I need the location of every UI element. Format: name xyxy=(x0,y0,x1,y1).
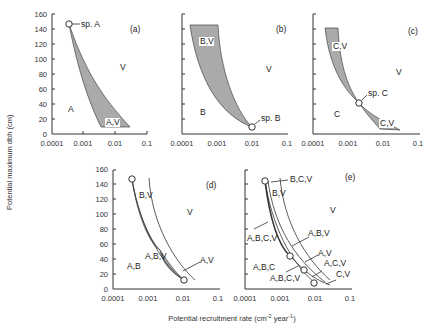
svg-text:40: 40 xyxy=(39,100,47,109)
svg-text:(d): (d) xyxy=(206,180,217,190)
svg-text:0.001: 0.001 xyxy=(271,294,290,303)
svg-text:60: 60 xyxy=(100,240,108,249)
svg-text:0.01: 0.01 xyxy=(376,139,391,148)
panel-b: 0.0001 0.001 0.01 0.1 sp. B (b) V B B,V xyxy=(171,14,293,148)
svg-text:0.1: 0.1 xyxy=(282,139,292,148)
panel-a: 0 20 40 60 80 100 120 140 160 0.0001 0.0… xyxy=(34,10,152,148)
svg-text:C,V: C,V xyxy=(336,269,351,279)
svg-text:0: 0 xyxy=(43,130,47,139)
svg-text:V: V xyxy=(187,207,193,217)
y-axis-label: Potential maximum dbh (cm) xyxy=(5,114,14,210)
panel-e: 0.0001 0.001 0.01 0.1 (e) V A,B,C B,C,V … xyxy=(234,170,356,303)
svg-text:140: 140 xyxy=(95,180,108,189)
svg-text:V: V xyxy=(330,205,336,215)
svg-text:0: 0 xyxy=(104,285,108,294)
svg-text:0.1: 0.1 xyxy=(213,294,223,303)
svg-text:160: 160 xyxy=(95,165,108,174)
svg-text:80: 80 xyxy=(39,70,47,79)
svg-text:A,B: A,B xyxy=(127,261,141,271)
svg-text:B,V: B,V xyxy=(139,190,153,200)
svg-text:0.1: 0.1 xyxy=(413,139,423,148)
figure-canvas: Potential maximum dbh (cm) 0 20 40 60 80… xyxy=(0,0,440,333)
svg-text:V: V xyxy=(396,67,402,77)
svg-text:0.0001: 0.0001 xyxy=(102,294,125,303)
panel-d: 0 20 40 60 80 100 120 140 160 0.0001 0.0… xyxy=(95,165,223,303)
svg-text:0.0001: 0.0001 xyxy=(234,294,257,303)
svg-text:(c): (c) xyxy=(408,26,418,36)
svg-text:A,V: A,V xyxy=(318,248,332,258)
svg-text:(a): (a) xyxy=(130,24,141,34)
svg-text:0.01: 0.01 xyxy=(245,139,260,148)
svg-text:A,B,C: A,B,C xyxy=(253,262,275,272)
svg-text:0.001: 0.001 xyxy=(208,139,227,148)
svg-text:0.01: 0.01 xyxy=(108,139,123,148)
svg-text:B,V: B,V xyxy=(272,188,286,198)
svg-text:100: 100 xyxy=(95,210,108,219)
svg-text:A,V: A,V xyxy=(106,117,120,127)
svg-text:sp. B: sp. B xyxy=(261,113,281,123)
svg-text:0.0001: 0.0001 xyxy=(302,139,325,148)
svg-text:0.001: 0.001 xyxy=(139,294,158,303)
svg-text:C,V: C,V xyxy=(333,41,348,51)
svg-text:B,V: B,V xyxy=(200,36,214,46)
svg-text:A,V: A,V xyxy=(200,255,214,265)
sp-a-point xyxy=(66,21,72,27)
svg-text:V: V xyxy=(120,62,126,72)
svg-text:0.001: 0.001 xyxy=(339,139,358,148)
svg-text:0.1: 0.1 xyxy=(345,294,355,303)
svg-text:A,B,V: A,B,V xyxy=(308,228,330,238)
svg-text:0.1: 0.1 xyxy=(142,139,152,148)
svg-text:20: 20 xyxy=(39,115,47,124)
svg-text:20: 20 xyxy=(100,270,108,279)
svg-text:sp. C: sp. C xyxy=(368,88,388,98)
svg-text:160: 160 xyxy=(34,10,47,19)
svg-text:120: 120 xyxy=(34,40,47,49)
svg-text:sp. A: sp. A xyxy=(81,19,100,29)
svg-text:B,C,V: B,C,V xyxy=(290,174,313,184)
svg-text:C: C xyxy=(334,109,340,119)
svg-text:0.0001: 0.0001 xyxy=(41,139,64,148)
svg-text:(b): (b) xyxy=(276,24,287,34)
svg-text:A,B,C,V: A,B,C,V xyxy=(270,273,301,283)
svg-text:80: 80 xyxy=(100,225,108,234)
svg-text:60: 60 xyxy=(39,85,47,94)
svg-text:0.001: 0.001 xyxy=(74,139,93,148)
svg-text:V: V xyxy=(266,64,272,74)
svg-text:0.01: 0.01 xyxy=(176,294,191,303)
svg-text:B: B xyxy=(200,107,206,117)
svg-text:A,C,V: A,C,V xyxy=(324,258,347,268)
svg-text:(e): (e) xyxy=(345,172,356,182)
x-axis-label: Potential recruitment rate (cm-2 year-1) xyxy=(168,313,296,323)
svg-text:40: 40 xyxy=(100,255,108,264)
svg-text:A: A xyxy=(68,104,74,114)
svg-text:C,V: C,V xyxy=(380,118,395,128)
svg-text:A,B,V: A,B,V xyxy=(145,251,167,261)
svg-text:100: 100 xyxy=(34,55,47,64)
svg-text:0.0001: 0.0001 xyxy=(171,139,194,148)
svg-text:A,B,C,V: A,B,C,V xyxy=(247,233,278,243)
panel-c: 0.0001 0.001 0.01 0.1 sp. C (c) V C C,V … xyxy=(302,14,424,148)
svg-text:0.01: 0.01 xyxy=(308,294,323,303)
svg-text:140: 140 xyxy=(34,25,47,34)
svg-text:120: 120 xyxy=(95,195,108,204)
